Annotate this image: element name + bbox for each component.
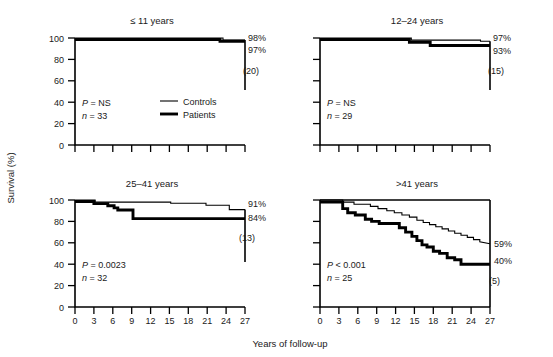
panel-4-xtick-0: 0 bbox=[317, 316, 322, 326]
panel-4-xtick-18: 18 bbox=[428, 316, 438, 326]
legend: Controls Patients bbox=[160, 97, 217, 120]
panel-2-title: 12–24 years bbox=[391, 15, 444, 26]
panel-4-x-ticks bbox=[320, 307, 490, 314]
panel-3-curve-patients bbox=[75, 202, 245, 219]
panel-3-ytick-40: 40 bbox=[54, 260, 64, 270]
panel-4-xtick-24: 24 bbox=[466, 316, 476, 326]
panel-1-y-ticks bbox=[68, 38, 75, 145]
panel-3-x-ticks bbox=[75, 307, 245, 314]
panel-1-axis-lines bbox=[75, 38, 245, 145]
panel-3-xtick-24: 24 bbox=[221, 316, 231, 326]
panel-3-xtick-15: 15 bbox=[164, 316, 174, 326]
legend-label-patients: Patients bbox=[183, 110, 216, 120]
panel-3-xtick-0: 0 bbox=[72, 316, 77, 326]
panel-4-xtick-27: 27 bbox=[485, 316, 495, 326]
panel-1-ytick-0: 0 bbox=[59, 141, 64, 151]
panel-3-n-at-risk: (13) bbox=[239, 233, 255, 243]
panel-1-endpoint-patients: 97% bbox=[248, 45, 266, 55]
panel-3-xtick-27: 27 bbox=[240, 316, 250, 326]
panel-4-p-value: P < 0.001 bbox=[327, 260, 366, 270]
y-axis-title-text: Survival (%) bbox=[5, 152, 16, 203]
panel-4: >41 years bbox=[313, 178, 512, 326]
panel-3-ytick-0: 0 bbox=[59, 303, 64, 313]
panel-2-n-value: n = 29 bbox=[327, 111, 352, 121]
panel-4-n-at-risk: (5) bbox=[489, 276, 500, 286]
panel-1-curve-patients bbox=[75, 40, 245, 42]
panel-1-endpoint-controls: 98% bbox=[248, 33, 266, 43]
panel-4-x-tick-labels: 0 3 6 9 12 15 18 21 24 27 bbox=[317, 316, 495, 326]
panel-1-ytick-40: 40 bbox=[54, 98, 64, 108]
panel-1-n-at-risk: (20) bbox=[243, 66, 259, 76]
panel-3-xtick-21: 21 bbox=[202, 316, 212, 326]
panel-2-x-ticks bbox=[320, 145, 490, 152]
panel-1-p-value: P = NS bbox=[82, 98, 111, 108]
panel-1-axes: 100 80 60 40 20 0 bbox=[49, 34, 245, 153]
panel-2-y-ticks bbox=[313, 38, 320, 145]
panel-2-axis-lines bbox=[320, 38, 490, 145]
panel-3-xtick-12: 12 bbox=[146, 316, 156, 326]
survival-chart-svg: Survival (%) Years of follow-up ≤ 11 yea… bbox=[0, 0, 553, 357]
panel-2-axes bbox=[313, 38, 490, 152]
panel-2: 12–24 years bbox=[313, 15, 511, 152]
panel-2-n-at-risk: (15) bbox=[488, 66, 504, 76]
panel-1-ytick-20: 20 bbox=[54, 119, 64, 129]
panel-4-xtick-21: 21 bbox=[447, 316, 457, 326]
y-axis-title: Survival (%) bbox=[5, 152, 16, 203]
panel-3-x-tick-labels: 0 3 6 9 12 15 18 21 24 27 bbox=[72, 316, 250, 326]
panel-1-title: ≤ 11 years bbox=[130, 15, 174, 26]
panel-4-xtick-9: 9 bbox=[374, 316, 379, 326]
panel-3-axes: 100 80 60 40 20 0 bbox=[49, 196, 250, 327]
panel-4-y-ticks bbox=[313, 200, 320, 307]
panel-4-axis-lines bbox=[320, 200, 490, 307]
panel-4-xtick-12: 12 bbox=[391, 316, 401, 326]
panel-4-endpoint-controls: 59% bbox=[494, 239, 512, 249]
panel-3-endpoint-patients: 84% bbox=[248, 213, 266, 223]
panel-4-n-value: n = 25 bbox=[327, 273, 352, 283]
panel-1-ytick-60: 60 bbox=[54, 76, 64, 86]
panel-3-ytick-60: 60 bbox=[54, 238, 64, 248]
panel-3-y-tick-labels: 100 80 60 40 20 0 bbox=[49, 196, 64, 313]
panel-3-xtick-3: 3 bbox=[91, 316, 96, 326]
panel-3-endpoint-controls: 91% bbox=[248, 199, 266, 209]
panel-4-curve-patients bbox=[320, 202, 490, 264]
panel-2-endpoint-patients: 93% bbox=[493, 46, 511, 56]
panel-3-p-value: P = 0.0023 bbox=[82, 260, 126, 270]
panel-2-endpoint-controls: 97% bbox=[493, 33, 511, 43]
legend-label-controls: Controls bbox=[183, 97, 217, 107]
panel-1-ytick-80: 80 bbox=[54, 55, 64, 65]
x-axis-title-text: Years of follow-up bbox=[252, 338, 327, 349]
panel-3-ytick-80: 80 bbox=[54, 217, 64, 227]
panel-3-ytick-20: 20 bbox=[54, 281, 64, 291]
panel-4-title: >41 years bbox=[396, 178, 438, 189]
panel-1: ≤ 11 years 100 80 60 40 bbox=[49, 15, 266, 152]
panel-1-ytick-100: 100 bbox=[49, 34, 64, 44]
panel-3-ytick-100: 100 bbox=[49, 196, 64, 206]
panel-3-title: 25–41 years bbox=[126, 178, 179, 189]
panel-4-xtick-15: 15 bbox=[409, 316, 419, 326]
panel-3-xtick-9: 9 bbox=[129, 316, 134, 326]
panel-4-endpoint-patients: 40% bbox=[494, 256, 512, 266]
panel-1-y-tick-labels: 100 80 60 40 20 0 bbox=[49, 34, 64, 151]
panel-3-n-value: n = 32 bbox=[82, 273, 107, 283]
survival-figure: Survival (%) Years of follow-up ≤ 11 yea… bbox=[0, 0, 553, 357]
panel-3-xtick-18: 18 bbox=[183, 316, 193, 326]
panel-4-xtick-3: 3 bbox=[336, 316, 341, 326]
panel-3-xtick-6: 6 bbox=[110, 316, 115, 326]
panel-2-p-value: P = NS bbox=[327, 98, 356, 108]
panel-3: 25–41 years 100 80 60 40 20 0 bbox=[49, 178, 266, 326]
panel-4-curve-controls bbox=[320, 200, 490, 244]
x-axis-title: Years of follow-up bbox=[252, 338, 327, 349]
panel-1-x-ticks bbox=[75, 145, 245, 152]
panel-3-y-ticks bbox=[68, 200, 75, 307]
panel-1-n-value: n = 33 bbox=[82, 111, 107, 121]
panel-3-axis-lines bbox=[75, 200, 245, 307]
panel-4-xtick-6: 6 bbox=[355, 316, 360, 326]
